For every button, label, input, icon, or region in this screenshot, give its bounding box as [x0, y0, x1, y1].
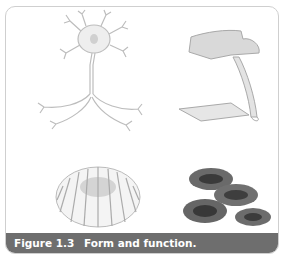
torus-cushion-illustration: [51, 152, 146, 230]
neuron-illustration: [26, 9, 146, 134]
chair-illustration: [171, 17, 276, 132]
figure-frame: Figure 1.3 Form and function.: [5, 6, 279, 254]
figure-title: Form and function.: [84, 237, 197, 249]
figure-number: Figure 1.3: [14, 237, 74, 249]
red-blood-cells-illustration: [181, 167, 276, 232]
figure-caption: Figure 1.3 Form and function.: [6, 233, 278, 253]
